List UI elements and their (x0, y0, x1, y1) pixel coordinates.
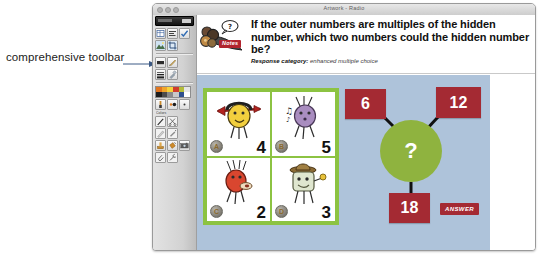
window-title: Artwork - Radio (153, 5, 535, 11)
annotation-label: comprehensive toolbar (6, 51, 124, 63)
mountain-image-icon[interactable] (155, 40, 166, 51)
question-text: If the outer numbers are multiples of th… (251, 18, 531, 56)
choice-cell-b[interactable]: ♫ ♪ B 5 (271, 91, 336, 157)
line-weight-icon[interactable] (155, 69, 166, 80)
choice-value: 3 (322, 204, 331, 221)
choice-value: 5 (322, 139, 331, 156)
paint-bucket-icon[interactable] (167, 140, 178, 151)
rectangle-shape-icon[interactable] (155, 57, 166, 68)
color-palette[interactable] (155, 86, 191, 98)
svg-text:♪: ♪ (286, 116, 290, 124)
brush-tool-icon[interactable] (155, 99, 166, 110)
table-tool-icon[interactable] (155, 28, 166, 39)
hidden-number-node[interactable]: ? (380, 120, 442, 182)
application-window: Artwork - Radio (152, 3, 536, 251)
toolbar-group-stroke-tools[interactable] (155, 69, 194, 80)
toolbar-group-shape-tools[interactable] (155, 57, 194, 68)
palette-row[interactable] (156, 92, 190, 97)
svg-text:♫: ♫ (285, 106, 293, 116)
paperclip-icon[interactable] (155, 152, 166, 163)
choice-letter-badge: D (275, 205, 288, 218)
toolbar-group-image-tools[interactable] (155, 40, 194, 51)
toolbar-group-media-tools[interactable] (155, 140, 194, 151)
crop-tool-icon[interactable] (167, 40, 178, 51)
toolbar-readout-icon (182, 19, 191, 23)
marker-tool-icon[interactable] (155, 128, 166, 139)
choice-cell-c[interactable]: C 2 (206, 157, 271, 223)
answer-button[interactable]: ANSWER (440, 203, 479, 215)
outer-number-top-right: 12 (436, 87, 481, 118)
checkmark-tool-icon[interactable] (179, 28, 190, 39)
outer-number-bottom: 18 (389, 193, 430, 223)
toolbar-group-brush-tools[interactable] (155, 99, 194, 110)
choice-letter-badge: A (210, 140, 223, 153)
text-align-tool-icon[interactable] (167, 28, 178, 39)
stamp-tool-icon[interactable] (155, 140, 166, 151)
notes-badge[interactable]: Notes (219, 40, 241, 48)
camera-tool-icon[interactable] (179, 140, 190, 151)
response-category-value: enhanced multiple choice (310, 58, 378, 64)
toolbar-divider (156, 53, 193, 55)
header-divider (197, 73, 535, 74)
scissors-tool-icon[interactable] (167, 116, 178, 127)
activity-stage: A 4 ♫ ♪ (197, 75, 490, 250)
toolbar-group-draw-tools[interactable] (155, 116, 194, 127)
choice-value: 4 (257, 139, 266, 156)
wrench-tool-icon[interactable] (167, 152, 178, 163)
paint-dot-icon[interactable] (167, 99, 178, 110)
choice-value: 2 (257, 204, 266, 221)
choice-cell-d[interactable]: D 3 (271, 157, 336, 223)
toolbar-title-bar-icon (158, 19, 172, 22)
outer-number-top-left: 6 (345, 89, 386, 119)
response-category-label: Response category: (251, 58, 308, 64)
response-category-row: Response category: enhanced multiple cho… (251, 58, 531, 64)
toolbar-divider (156, 82, 193, 84)
notes-mascot-icon: ? (198, 19, 248, 59)
toolbar-group-layout-tools[interactable] (155, 28, 194, 39)
swatch-white[interactable] (184, 92, 190, 97)
airbrush-tool-icon[interactable] (167, 128, 178, 139)
toolbar-header-strip[interactable] (155, 16, 194, 26)
eyedropper-tool-icon[interactable] (167, 69, 178, 80)
pen-tool-icon[interactable] (155, 116, 166, 127)
comprehensive-toolbar[interactable]: Colors (153, 15, 197, 250)
toolbar-group-misc-tools[interactable] (155, 152, 194, 163)
choice-letter-badge: C (210, 205, 223, 218)
hidden-number-diagram: 6 12 18 ? ANSWER (345, 81, 485, 233)
document-canvas: ? Notes If the outer numbers are multipl… (197, 15, 535, 250)
question-header: ? Notes If the outer numbers are multipl… (197, 15, 535, 75)
dot-small-icon[interactable] (179, 99, 190, 110)
choice-letter-badge: B (275, 140, 288, 153)
svg-text:?: ? (228, 23, 232, 31)
choice-cell-a[interactable]: A 4 (206, 91, 271, 157)
toolbar-group-marker-tools[interactable] (155, 128, 194, 139)
annotation-callout: comprehensive toolbar (6, 51, 156, 71)
toolbar-swatch-label: Colors (156, 111, 193, 115)
choice-grid[interactable]: A 4 ♫ ♪ (203, 88, 339, 225)
pencil-tool-icon[interactable] (167, 57, 178, 68)
